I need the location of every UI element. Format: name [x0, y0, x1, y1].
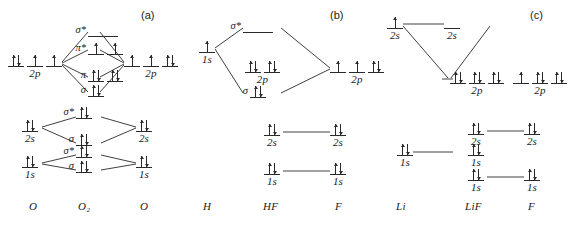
- electron-arrow-up: [92, 85, 96, 96]
- orbital-slots: σ*: [243, 20, 273, 33]
- electron-arrow-up: [80, 146, 84, 157]
- electron-arrow-down: [17, 55, 21, 66]
- level-label-2s: 2s: [390, 30, 400, 41]
- orbital-slot: [330, 162, 346, 175]
- electron-arrow-down: [533, 123, 537, 134]
- electron-arrow-up: [113, 43, 117, 54]
- orbital-slots: σ*: [76, 106, 92, 119]
- orbital-slot: [27, 54, 43, 67]
- electron-arrow-up: [254, 86, 258, 97]
- orbital-slots: σ: [250, 85, 266, 98]
- orbital-slots: [468, 143, 484, 156]
- electron-arrow-down: [145, 120, 149, 131]
- orbital-slot: π: [88, 69, 104, 82]
- level-label-2s: 2s: [333, 137, 343, 148]
- species-label-lif: LiF: [465, 200, 482, 212]
- electron-arrow-up: [519, 72, 523, 83]
- electron-arrow-down: [459, 72, 463, 83]
- electron-arrow-down: [31, 120, 35, 131]
- orbital-slots: [397, 143, 413, 156]
- electron-arrow-up: [140, 120, 144, 131]
- orbital-slot: σ: [250, 85, 266, 98]
- electron-arrow-down: [85, 161, 89, 172]
- level-label-2p: 2p: [351, 74, 362, 85]
- level-label-1s: 1s: [139, 169, 149, 180]
- electron-arrow-up: [268, 61, 272, 72]
- electron-arrow-up: [94, 43, 98, 54]
- level-o-right-2s: 2s: [136, 119, 152, 144]
- level-o-left-1s: 1s: [22, 155, 38, 180]
- level-f-1s-b: 1s: [330, 162, 346, 187]
- orbital-slot: [524, 168, 540, 181]
- electron-arrow-up: [52, 55, 56, 66]
- electron-arrow-down: [273, 163, 277, 174]
- electron-arrow-up: [472, 169, 476, 180]
- electron-arrow-up: [473, 72, 477, 83]
- electron-arrow-down: [541, 72, 545, 83]
- electron-arrow-up: [12, 55, 16, 66]
- electron-arrow-down: [259, 86, 263, 97]
- orbital-slot: σ*: [76, 145, 92, 158]
- level-hf-sigma: σ: [250, 85, 266, 98]
- electron-arrow-down: [478, 72, 482, 83]
- species-label-h: H: [203, 200, 211, 212]
- orbital-slot: [124, 54, 140, 67]
- electron-arrow-up: [140, 156, 144, 167]
- electron-arrow-up: [372, 61, 376, 72]
- orbital-slot: σ*: [88, 24, 118, 37]
- level-label-1s: 1s: [25, 169, 35, 180]
- electron-arrow-down: [97, 70, 101, 81]
- electron-arrow-down: [97, 85, 101, 96]
- species-label-o-right: O: [140, 200, 148, 212]
- electron-arrow-down: [85, 134, 89, 145]
- electron-arrow-down: [145, 156, 149, 167]
- level-label-2p: 2p: [145, 68, 156, 79]
- level-f-2s-c: 2s: [524, 122, 540, 147]
- level-o-left-2p: 2p: [8, 54, 62, 79]
- level-label-2p: 2p: [29, 68, 40, 79]
- orbital-slot: σ*: [243, 20, 273, 33]
- electron-arrow-up: [149, 55, 153, 66]
- orbital-slots: σ*: [88, 24, 118, 37]
- orbital-slot: [468, 168, 484, 181]
- electron-arrow-down: [171, 55, 175, 66]
- electron-arrow-up: [205, 41, 209, 52]
- orbital-slots: [450, 71, 504, 84]
- mo-label-sigma-2p: σ: [81, 85, 86, 96]
- orbital-slots: [524, 122, 540, 135]
- electron-arrow-up: [336, 61, 340, 72]
- electron-arrow-down: [273, 124, 277, 135]
- level-o-left-2s: 2s: [22, 119, 38, 144]
- electron-arrow-up: [536, 72, 540, 83]
- level-o2-sigma-1s: σ: [76, 160, 92, 173]
- orbital-slot: [264, 123, 280, 136]
- orbital-slot: σ: [88, 84, 104, 97]
- species-label-f-b: F: [335, 200, 342, 212]
- mo-label-sigma-star: σ*: [231, 21, 241, 32]
- orbital-slot: [264, 162, 280, 175]
- level-label-1s: 1s: [400, 157, 410, 168]
- level-lif-1s-li: 1s: [468, 143, 484, 168]
- level-o-right-1s: 1s: [136, 155, 152, 180]
- orbital-slot: [22, 119, 38, 132]
- level-label-2s: 2s: [139, 133, 149, 144]
- orbital-slots: [468, 168, 484, 181]
- electron-arrow-up: [393, 17, 397, 28]
- orbital-slots: [264, 123, 280, 136]
- electron-arrow-up: [80, 107, 84, 118]
- level-lif-1s-f: 1s: [468, 168, 484, 193]
- level-label-1s: 1s: [267, 176, 277, 187]
- electron-arrow-down: [377, 61, 381, 72]
- orbital-slots: [136, 119, 152, 132]
- level-label-2p: 2p: [471, 85, 482, 96]
- level-hf-2p: 2p: [245, 60, 280, 85]
- electron-arrow-up: [334, 163, 338, 174]
- level-f-1s-c: 1s: [524, 168, 540, 193]
- electron-arrow-down: [477, 169, 481, 180]
- orbital-slot: [107, 42, 123, 55]
- orbital-slots: [387, 16, 403, 29]
- level-o2-pi-star-2p: π*: [88, 42, 123, 55]
- orbital-slot: π*: [88, 42, 104, 55]
- level-label-2s: 2s: [25, 133, 35, 144]
- mo-diagram-figure: (a) σ* π* π: [0, 0, 573, 232]
